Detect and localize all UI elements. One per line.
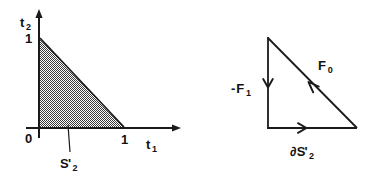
right-panel: -F1 F0 ∂S'2 bbox=[190, 0, 373, 175]
left-edge-label: -F1 bbox=[231, 80, 251, 98]
x-axis-tick-label-one: 1 bbox=[121, 133, 128, 146]
right-panel-graphics bbox=[190, 0, 373, 175]
simplex-region-label: S'2 bbox=[60, 155, 77, 173]
x-axis-label: t1 bbox=[146, 136, 157, 154]
y-axis-tick-label-one: 1 bbox=[25, 32, 32, 45]
bottom-edge-label: ∂S'2 bbox=[290, 143, 314, 161]
origin-label: 0 bbox=[25, 132, 32, 145]
figure-root: t2 t1 1 0 1 S'2 bbox=[0, 0, 373, 175]
region-label-leader-line bbox=[68, 125, 70, 152]
x-axis-arrowhead bbox=[172, 124, 181, 131]
left-panel: t2 t1 1 0 1 S'2 bbox=[0, 0, 190, 175]
y-axis-arrowhead bbox=[35, 9, 42, 18]
y-axis-label: t2 bbox=[20, 14, 31, 32]
hypotenuse-edge-label: F0 bbox=[318, 57, 333, 75]
